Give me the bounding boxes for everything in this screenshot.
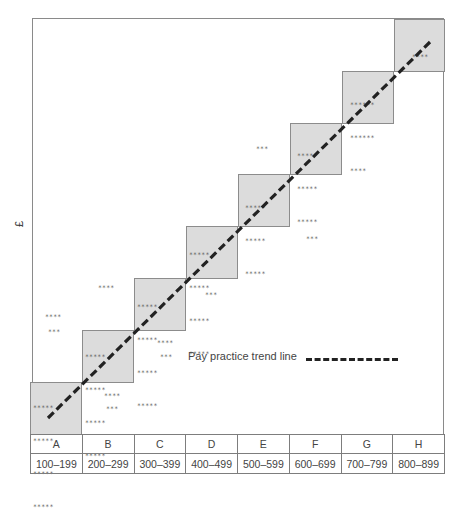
grade-d: D [186, 435, 238, 454]
star-row: ***** [33, 502, 54, 512]
range-e: 500–599 [238, 454, 290, 474]
range-f: 600–699 [289, 454, 341, 474]
range-b: 200–299 [82, 454, 134, 474]
grade-a: A [31, 435, 83, 454]
range-c: 300–399 [134, 454, 186, 474]
legend-label: Pay practice trend line [188, 350, 297, 362]
grade-letter-row: A B C D E F G H [31, 435, 445, 454]
grade-table: A B C D E F G H 100–199 200–299 300–399 … [30, 434, 445, 474]
legend-dashed-line-icon [306, 358, 398, 361]
grade-g: G [341, 435, 393, 454]
grade-e: E [238, 435, 290, 454]
grade-c: C [134, 435, 186, 454]
range-d: 400–499 [186, 454, 238, 474]
grade-h: H [393, 435, 445, 454]
grade-f: F [289, 435, 341, 454]
range-h: 800–899 [393, 454, 445, 474]
range-g: 700–799 [341, 454, 393, 474]
grade-b: B [82, 435, 134, 454]
range-a: 100–199 [31, 454, 83, 474]
grade-range-row: 100–199 200–299 300–399 400–499 500–599 … [31, 454, 445, 474]
